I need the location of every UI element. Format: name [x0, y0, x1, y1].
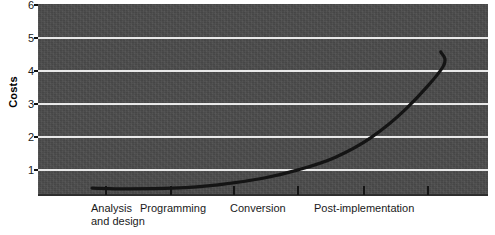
- y-tick-label-5: 5: [18, 33, 34, 44]
- x-category-label-line1: Programming: [140, 202, 206, 215]
- cost-curve-path: [92, 52, 445, 189]
- x-tick-mark-6: [427, 186, 429, 195]
- x-category-label-programming: Programming: [140, 202, 206, 215]
- y-axis-tick-labels: 6 5 4 3 2 1: [14, 0, 34, 195]
- cost-curve-chart: Costs 6 5 4 3 2 1 Analysis and design: [0, 0, 495, 235]
- x-tick-mark-5: [363, 186, 365, 195]
- y-tick-label-1: 1: [18, 165, 34, 176]
- x-tick-mark-2: [170, 186, 172, 195]
- y-tick-label-3: 3: [18, 99, 34, 110]
- x-category-label-post-implementation: Post-implementation: [314, 202, 414, 215]
- x-tick-mark-1: [105, 186, 107, 195]
- plot-area: [38, 4, 488, 194]
- x-category-label-line2: and design: [91, 215, 145, 228]
- y-tick-label-6: 6: [18, 0, 34, 11]
- x-category-label-line1: Post-implementation: [314, 202, 414, 215]
- y-tick-label-4: 4: [18, 66, 34, 77]
- y-tick-label-2: 2: [18, 132, 34, 143]
- cost-curve-line: [38, 4, 488, 194]
- x-tick-mark-3: [233, 186, 235, 195]
- x-category-label-analysis-and-design: Analysis and design: [91, 202, 145, 228]
- x-tick-mark-4: [297, 186, 299, 195]
- x-category-label-line1: Analysis: [91, 202, 145, 215]
- x-category-label-line1: Conversion: [230, 202, 286, 215]
- x-category-label-conversion: Conversion: [230, 202, 286, 215]
